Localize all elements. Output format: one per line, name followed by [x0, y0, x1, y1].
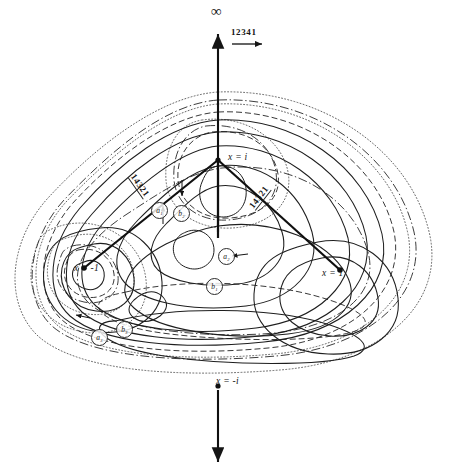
node-label-infinity: ∞ — [211, 3, 222, 20]
loop-label-a1: a₁ — [151, 202, 168, 219]
diagram-vector-layer — [0, 0, 455, 472]
node-label-branch-i: x = i — [228, 152, 248, 162]
loop-label-b2: b₂ — [173, 205, 190, 222]
node-label-branch-minus-one: x = -1 — [74, 263, 99, 273]
diagram-canvas: ∞ 12341 x = i x = -1 x = 1 x = -i 14321 … — [0, 0, 455, 472]
edge-i-to-one — [218, 160, 340, 270]
loop-label-b1: b₁ — [206, 278, 223, 295]
node-dots — [81, 157, 343, 388]
loop-label-b3: b₃ — [116, 321, 133, 338]
loop-label-a2: a₂ — [218, 248, 235, 265]
solid-loops — [44, 120, 399, 364]
permutation-label-infinity: 12341 — [231, 27, 257, 37]
loop-label-a3: a₃ — [91, 329, 108, 346]
node-label-branch-minus-i: x = -i — [216, 376, 239, 386]
dot-branch-i — [215, 157, 220, 162]
node-label-branch-one: x = 1 — [322, 268, 344, 278]
